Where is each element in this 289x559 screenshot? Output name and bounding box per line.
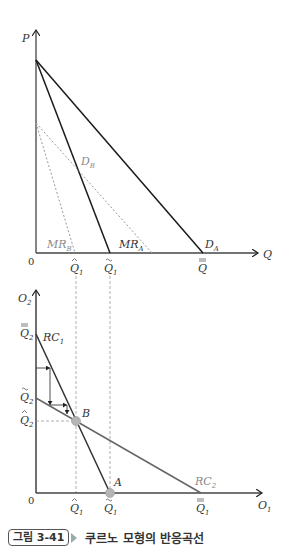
mr-a-label: MRA: [118, 238, 144, 253]
rc1-label: RC1: [42, 331, 64, 346]
reaction-curve-1: [36, 334, 110, 493]
svg-text:Q2: Q2: [20, 414, 34, 429]
o1-q-bar-1-tick: Q1: [196, 499, 210, 517]
p-axis-label: P: [21, 32, 30, 45]
svg-text:Q1: Q1: [196, 502, 210, 517]
origin-label: 0: [28, 256, 34, 267]
svg-text:Q2: Q2: [20, 327, 34, 342]
point-a: [106, 489, 115, 498]
point-a-label: A: [113, 476, 122, 489]
bottom-chart: O2 O1 0 RC1 RC2 B A Q2 Q2 Q2 Q1 Q1: [18, 290, 272, 517]
caption-arrow-icon: [71, 533, 77, 543]
demand-a-label: DA: [204, 238, 219, 253]
svg-text:Q1: Q1: [104, 502, 118, 517]
cournot-diagram: P Q 0 DB MRB MRA DA Q1 Q1 Q: [0, 0, 289, 559]
top-chart: P Q 0 DB MRB MRA DA Q1 Q1 Q: [21, 30, 272, 277]
figure-title: 쿠르노 모형의 반응곡선: [85, 529, 203, 546]
marginal-revenue-curve-b: [36, 123, 75, 253]
svg-text:Q1: Q1: [104, 262, 118, 277]
svg-text:Q: Q: [198, 262, 207, 275]
o2-axis-label: O2: [18, 292, 32, 307]
o1-q-hat-1-tick: Q1: [70, 499, 84, 518]
figure-number-badge: 그림 3-41: [8, 529, 69, 546]
rc2-label: RC2: [194, 475, 217, 490]
o1-q-tilde-1-tick: Q1: [104, 499, 118, 517]
mr-b-label: MRB: [46, 238, 72, 253]
q-hat-2-tick: Q2: [20, 411, 34, 430]
demand-curve-b: [36, 123, 152, 253]
point-b-label: B: [81, 407, 90, 420]
demand-b-label: DB: [80, 155, 95, 170]
marginal-revenue-curve-a: [36, 60, 110, 253]
q-tilde-1-tick: Q1: [104, 259, 118, 277]
q-axis-label: Q: [263, 248, 272, 261]
q-bar-tick: Q: [198, 259, 207, 275]
svg-text:Q2: Q2: [20, 391, 34, 406]
o1-axis-label: O1: [258, 499, 272, 514]
svg-text:Q1: Q1: [70, 262, 84, 277]
demand-curve-a: [36, 60, 203, 253]
figure-caption: 그림 3-41 쿠르노 모형의 반응곡선: [8, 529, 204, 546]
q-bar-2-tick: Q2: [20, 324, 34, 342]
svg-text:Q1: Q1: [70, 502, 84, 517]
q-tilde-2-tick: Q2: [20, 388, 34, 406]
q-hat-1-tick: Q1: [70, 259, 84, 278]
origin-label-bottom: 0: [28, 495, 34, 506]
point-b: [72, 417, 81, 426]
